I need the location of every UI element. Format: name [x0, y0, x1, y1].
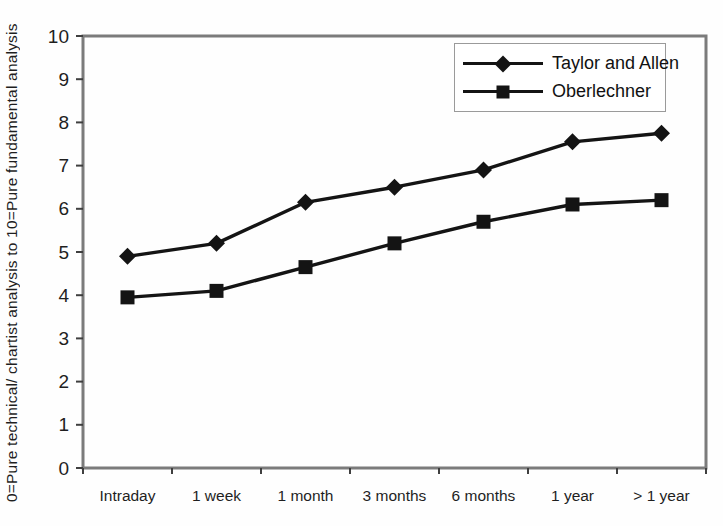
- legend-item-taylor-and-allen: Taylor and Allen: [455, 53, 665, 74]
- data-point-square-oberlechner: [210, 284, 224, 298]
- legend-item-oberlechner: Oberlechner: [455, 81, 665, 102]
- diamond-marker-icon: [495, 55, 512, 72]
- data-point-diamond-taylor-and-allen: [297, 194, 314, 211]
- x-tick-label: 6 months: [452, 487, 516, 504]
- x-tick-label: 1 month: [277, 487, 333, 504]
- y-tick-label: 7: [58, 155, 69, 176]
- data-point-square-oberlechner: [121, 290, 135, 304]
- data-point-diamond-taylor-and-allen: [475, 161, 492, 178]
- x-tick-label: 1 week: [192, 487, 241, 504]
- data-point-diamond-taylor-and-allen: [564, 133, 581, 150]
- x-tick-label: 1 year: [551, 487, 594, 504]
- y-tick-label: 6: [58, 198, 69, 219]
- y-tick-label: 10: [48, 26, 69, 47]
- y-tick-label: 2: [58, 371, 69, 392]
- legend-swatch-line: [461, 83, 545, 101]
- data-point-diamond-taylor-and-allen: [208, 235, 225, 252]
- data-point-square-oberlechner: [477, 215, 491, 229]
- x-tick-label: Intraday: [99, 487, 155, 504]
- chart-figure: 0=Pure technical/ chartist analysis to 1…: [0, 0, 723, 526]
- legend-label: Taylor and Allen: [552, 53, 679, 74]
- square-marker-icon: [497, 85, 510, 98]
- legend-swatch-line: [461, 55, 545, 73]
- x-tick-label: 3 months: [363, 487, 427, 504]
- data-point-square-oberlechner: [566, 197, 580, 211]
- data-point-square-oberlechner: [299, 260, 313, 274]
- data-point-diamond-taylor-and-allen: [653, 125, 670, 142]
- y-axis-title: 0=Pure technical/ chartist analysis to 1…: [3, 14, 21, 512]
- y-tick-label: 3: [58, 328, 69, 349]
- y-tick-label: 4: [58, 285, 69, 306]
- legend: Taylor and Allen Oberlechner: [454, 43, 666, 112]
- x-tick-label: > 1 year: [633, 487, 689, 504]
- data-point-diamond-taylor-and-allen: [119, 248, 136, 265]
- legend-label: Oberlechner: [552, 81, 651, 102]
- y-tick-label: 8: [58, 112, 69, 133]
- y-tick-label: 5: [58, 242, 69, 263]
- data-point-square-oberlechner: [655, 193, 669, 207]
- y-tick-label: 9: [58, 69, 69, 90]
- data-point-diamond-taylor-and-allen: [386, 179, 403, 196]
- data-point-square-oberlechner: [388, 236, 402, 250]
- y-tick-label: 0: [58, 458, 69, 479]
- y-tick-label: 1: [58, 414, 69, 435]
